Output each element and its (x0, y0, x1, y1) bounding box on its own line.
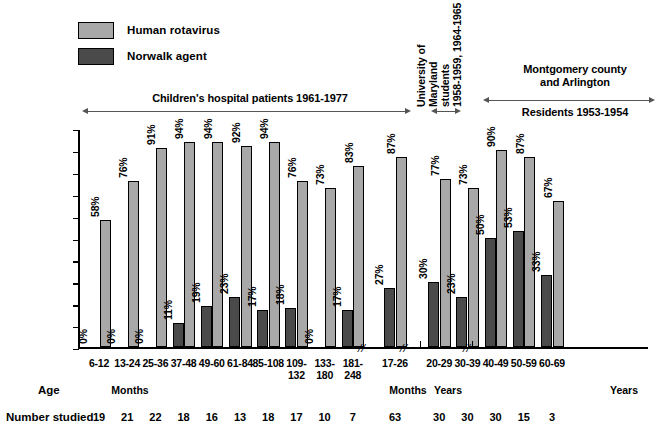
annotation-montgomery-line (489, 100, 649, 101)
arrow-left-icon (483, 97, 489, 103)
bar-group: 11%94% (173, 128, 196, 347)
bar-value-label-rotavirus: 94% (258, 118, 270, 138)
bar-value-label-rotavirus: 92% (230, 123, 242, 143)
age-axis-label: Age (38, 384, 60, 396)
bar-value-label-norwalk: 33% (530, 252, 542, 272)
axis-break-icon: // (463, 340, 470, 356)
bar-human-rotavirus[interactable] (128, 181, 139, 347)
bar-norwalk-agent[interactable] (257, 310, 268, 347)
x-axis-tick-label: 17-26 (371, 358, 419, 370)
bar-value-label-rotavirus: 58% (89, 197, 101, 217)
x-axis-tick-label: 60-69 (528, 358, 576, 370)
bar-human-rotavirus[interactable] (468, 188, 479, 348)
annotation-montgomery-line1: Montgomery county (495, 63, 655, 75)
bar-value-label-rotavirus: 67% (542, 177, 554, 197)
bar-group: 0%76% (116, 128, 139, 347)
y-axis-tick (73, 349, 79, 350)
bar-group: 17%94% (257, 128, 280, 347)
bar-human-rotavirus[interactable] (496, 150, 507, 347)
bar-human-rotavirus[interactable] (269, 142, 280, 348)
arrow-left-icon (431, 108, 437, 114)
bar-value-label-norwalk: 18% (274, 285, 286, 305)
annotation-umd-line2: Maryland (427, 62, 439, 107)
bar-value-label-norwalk: 0% (77, 330, 89, 345)
bar-norwalk-agent[interactable] (513, 231, 524, 347)
bars-container: 0%58%0%76%0%91%11%94%19%94%23%92%17%94%1… (78, 128, 648, 347)
bar-group: 27%87% (384, 128, 407, 347)
bar-norwalk-agent[interactable] (384, 288, 395, 347)
x-axis-tick-label: 181-248 (329, 358, 377, 381)
legend-item-norwalk-agent: Norwalk agent (78, 46, 220, 66)
bar-norwalk-agent[interactable] (428, 282, 439, 348)
bar-value-label-norwalk: 23% (218, 274, 230, 294)
bar-value-label-rotavirus: 94% (202, 118, 214, 138)
legend-label-norwalk-agent: Norwalk agent (127, 50, 207, 62)
bar-value-label-norwalk: 17% (331, 287, 343, 307)
bar-human-rotavirus[interactable] (241, 146, 252, 347)
bar-norwalk-agent[interactable] (541, 275, 552, 347)
arrow-right-icon (649, 97, 655, 103)
annotation-childrens-hospital-text: Children's hospital patients 1961-1977 (100, 92, 400, 104)
axis-break-icon: // (400, 340, 407, 356)
bar-human-rotavirus[interactable] (184, 142, 195, 348)
bar-value-label-norwalk: 30% (417, 258, 429, 278)
legend-swatch-norwalk-agent (78, 48, 114, 65)
annotation-childrens-hospital-line (88, 111, 405, 112)
bar-value-label-norwalk: 17% (246, 287, 258, 307)
bar-group: 0%58% (88, 128, 111, 347)
annotation-umd-line (437, 111, 455, 112)
bar-human-rotavirus[interactable] (325, 188, 336, 348)
arrow-right-icon (405, 108, 411, 114)
bar-group: 23%92% (229, 128, 252, 347)
bar-value-label-rotavirus: 76% (117, 158, 129, 178)
bar-group: 19%94% (201, 128, 224, 347)
bar-group: 17%83% (342, 128, 365, 347)
unit-months-left: Months (100, 384, 160, 396)
number-studied-value: 63 (371, 411, 419, 423)
bar-norwalk-agent[interactable] (229, 297, 240, 347)
bar-value-label-rotavirus: 87% (514, 133, 526, 153)
bar-value-label-rotavirus: 90% (485, 127, 497, 147)
bar-norwalk-agent[interactable] (485, 238, 496, 348)
axis-section-tick (420, 341, 421, 348)
bar-group: 33%67% (541, 128, 564, 347)
annotation-umd-line3: students (439, 64, 451, 107)
bar-value-label-rotavirus: 91% (145, 125, 157, 145)
axis-section-tick (472, 341, 473, 348)
chart-legend: Human rotavirus Norwalk agent (78, 20, 220, 72)
bar-value-label-norwalk: 27% (373, 265, 385, 285)
legend-label-human-rotavirus: Human rotavirus (127, 24, 220, 36)
annotation-montgomery-line3: Residents 1953-1954 (495, 106, 655, 118)
annotation-umd-line1: University of (415, 45, 427, 107)
bar-value-label-rotavirus: 94% (173, 118, 185, 138)
bar-value-label-norwalk: 50% (474, 214, 486, 234)
bar-norwalk-agent[interactable] (173, 323, 184, 347)
bar-value-label-norwalk: 11% (162, 300, 174, 320)
bar-value-label-norwalk: 53% (502, 208, 514, 228)
bar-value-label-rotavirus: 87% (385, 133, 397, 153)
bar-value-label-rotavirus: 73% (457, 164, 469, 184)
bar-human-rotavirus[interactable] (297, 181, 308, 347)
bar-human-rotavirus[interactable] (212, 142, 223, 348)
bar-group: 23%73% (456, 128, 479, 347)
bar-group: 53%87% (513, 128, 536, 347)
bar-value-label-norwalk: 0% (133, 330, 145, 345)
number-studied-value: 7 (329, 411, 377, 423)
bar-value-label-norwalk: 0% (303, 330, 315, 345)
unit-years-left: Years (424, 384, 472, 396)
bar-value-label-norwalk: 0% (105, 330, 117, 345)
bar-group: 0%73% (314, 128, 337, 347)
arrow-left-icon (82, 108, 88, 114)
bar-human-rotavirus[interactable] (396, 157, 407, 348)
annotation-umd-line4: 1958-1959, 1964-1965 (451, 3, 463, 107)
bar-value-label-norwalk: 19% (190, 282, 202, 302)
bar-human-rotavirus[interactable] (353, 166, 364, 348)
annotation-montgomery-line2: and Arlington (495, 76, 655, 88)
bar-value-label-norwalk: 23% (445, 274, 457, 294)
bar-value-label-rotavirus: 76% (286, 158, 298, 178)
bar-human-rotavirus[interactable] (440, 179, 451, 348)
bar-norwalk-agent[interactable] (342, 310, 353, 347)
bar-norwalk-agent[interactable] (201, 306, 212, 348)
bar-norwalk-agent[interactable] (285, 308, 296, 347)
bar-human-rotavirus[interactable] (553, 201, 564, 348)
